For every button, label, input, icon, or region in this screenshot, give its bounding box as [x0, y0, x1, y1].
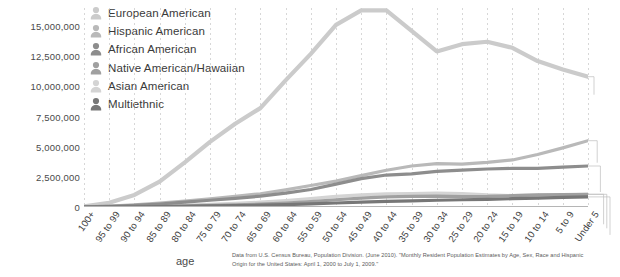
- x-axis-tick-label: 50 to 54: [320, 209, 349, 244]
- x-axis-tick-label: 60 to 64: [269, 209, 298, 244]
- y-axis-tick-label: 7,500,000: [2, 111, 80, 122]
- plot-area: [84, 8, 588, 207]
- y-axis-tick-label: 10,000,000: [2, 81, 80, 92]
- x-axis-tick-label: Under 5: [572, 209, 601, 244]
- y-axis-tick-label: 2,500,000: [2, 171, 80, 182]
- x-axis-tick-label: 70 to 74: [219, 209, 248, 244]
- chart-container: 02,500,0005,000,0007,500,00010,000,00012…: [0, 0, 620, 277]
- series-end-bracket: [588, 141, 597, 163]
- x-axis-tick-label: 40 to 44: [370, 209, 399, 244]
- gridline: [588, 8, 589, 207]
- x-axis-tick-label: 65 to 69: [244, 209, 273, 244]
- source-citation: Data from U.S. Census Bureau, Population…: [232, 251, 592, 269]
- x-axis-tick-label: 5 to 9: [553, 209, 576, 235]
- y-axis-tick-label: 12,500,000: [2, 51, 80, 62]
- x-axis-tick-label: 55 to 59: [295, 209, 324, 244]
- x-axis-tick-label: 75 to 79: [194, 209, 223, 244]
- x-axis-tick-label: 80 to 84: [169, 209, 198, 244]
- x-axis-tick-label: 35 to 39: [395, 209, 424, 244]
- x-axis-tick-label: 30 to 34: [421, 209, 450, 244]
- x-axis-tick-label: 10 to 14: [521, 209, 550, 244]
- series-line: [84, 10, 588, 206]
- x-axis-tick-label: 95 to 99: [93, 209, 122, 244]
- x-axis-tick-label: 85 to 89: [143, 209, 172, 244]
- x-axis-title: age: [176, 255, 194, 267]
- x-axis-tick-label: 25 to 29: [446, 209, 475, 244]
- x-axis-tick-label: 20 to 24: [471, 209, 500, 244]
- x-axis-tick-label: 90 to 94: [118, 209, 147, 244]
- x-axis-tick-label: 45 to 49: [345, 209, 374, 244]
- y-axis: 02,500,0005,000,0007,500,00010,000,00012…: [0, 0, 80, 277]
- y-axis-tick-label: 5,000,000: [2, 141, 80, 152]
- y-axis-tick-label: 0: [2, 202, 80, 213]
- series-end-bracket: [588, 166, 600, 192]
- x-axis-tick-label: 15 to 19: [496, 209, 525, 244]
- x-axis: 100+95 to 9990 to 9485 to 8980 to 8475 t…: [84, 207, 588, 255]
- series-lines: [84, 8, 588, 207]
- y-axis-tick-label: 15,000,000: [2, 21, 80, 32]
